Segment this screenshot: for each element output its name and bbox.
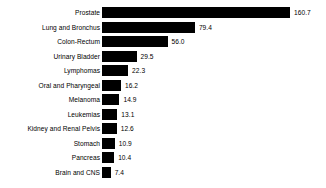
bar	[102, 167, 111, 178]
category-label: Pancreas	[0, 152, 100, 163]
bar-row: Melanoma14.9	[0, 94, 326, 109]
plot-area: Prostate160.7Lung and Bronchus79.4Colon-…	[0, 7, 326, 183]
bar-row: Brain and CNS7.4	[0, 167, 326, 182]
value-label: 160.7	[294, 7, 311, 18]
bar	[102, 152, 114, 163]
bar-with-value: 7.4	[102, 167, 124, 178]
bar-with-value: 160.7	[102, 7, 311, 18]
bar-with-value: 14.9	[102, 94, 136, 105]
category-label: Lymphomas	[0, 65, 100, 76]
value-label: 29.5	[141, 51, 154, 62]
value-label: 79.4	[199, 22, 212, 33]
category-label: Oral and Pharyngeal	[0, 80, 100, 91]
bar-row: Lymphomas22.3	[0, 65, 326, 80]
bar-row: Lung and Bronchus79.4	[0, 22, 326, 37]
bar	[102, 65, 128, 76]
bar-with-value: 29.5	[102, 51, 154, 62]
value-label: 16.2	[125, 80, 138, 91]
bar-row: Colon-Rectum56.0	[0, 36, 326, 51]
category-label: Lung and Bronchus	[0, 22, 100, 33]
bar	[102, 80, 121, 91]
bar	[102, 22, 195, 33]
bar-with-value: 56.0	[102, 36, 185, 47]
bar	[102, 94, 119, 105]
value-label: 22.3	[132, 65, 145, 76]
bar-with-value: 13.1	[102, 109, 134, 120]
bar-with-value: 12.6	[102, 123, 134, 134]
value-label: 10.9	[119, 138, 132, 149]
value-label: 10.4	[118, 152, 131, 163]
value-label: 12.6	[121, 123, 134, 134]
category-label: Melanoma	[0, 94, 100, 105]
category-label: Prostate	[0, 7, 100, 18]
value-label: 7.4	[115, 167, 124, 178]
bar-row: Oral and Pharyngeal16.2	[0, 80, 326, 95]
bar-with-value: 10.4	[102, 152, 131, 163]
category-label: Leukemias	[0, 109, 100, 120]
category-label: Brain and CNS	[0, 167, 100, 178]
bar	[102, 138, 115, 149]
bar-row: Leukemias13.1	[0, 109, 326, 124]
category-label: Kidney and Renal Pelvis	[0, 123, 100, 134]
value-label: 14.9	[123, 94, 136, 105]
category-label: Stomach	[0, 138, 100, 149]
bar-chart: Prostate160.7Lung and Bronchus79.4Colon-…	[0, 0, 326, 188]
bar-row: Stomach10.9	[0, 138, 326, 153]
category-label: Urinary Bladder	[0, 51, 100, 62]
category-label: Colon-Rectum	[0, 36, 100, 47]
bar-with-value: 16.2	[102, 80, 138, 91]
bar	[102, 109, 117, 120]
bar	[102, 51, 137, 62]
bar-row: Kidney and Renal Pelvis12.6	[0, 123, 326, 138]
bar-with-value: 10.9	[102, 138, 132, 149]
value-label: 56.0	[172, 36, 185, 47]
bar-with-value: 22.3	[102, 65, 145, 76]
bar-row: Urinary Bladder29.5	[0, 51, 326, 66]
bar	[102, 7, 290, 18]
bar	[102, 123, 117, 134]
bar	[102, 36, 168, 47]
bar-row: Pancreas10.4	[0, 152, 326, 167]
bar-row: Prostate160.7	[0, 7, 326, 22]
bar-with-value: 79.4	[102, 22, 212, 33]
value-label: 13.1	[121, 109, 134, 120]
